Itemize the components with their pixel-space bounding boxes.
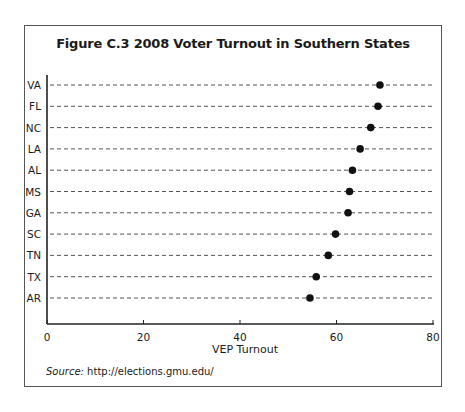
data-point [374, 103, 382, 111]
x-tick-label: 20 [137, 331, 150, 343]
data-point [312, 273, 320, 281]
y-category-label: SC [27, 228, 41, 240]
y-category-label: TN [26, 249, 41, 261]
data-point [332, 230, 340, 238]
data-point [349, 166, 357, 174]
x-axis-label: VEP Turnout [180, 343, 310, 356]
y-category-label: NC [26, 122, 41, 134]
x-tick-label: 60 [330, 331, 343, 343]
y-category-label: LA [28, 143, 42, 155]
y-category-label: GA [26, 207, 42, 219]
y-category-label: AR [27, 292, 41, 304]
y-category-label: TX [26, 271, 41, 283]
y-category-label: AL [28, 164, 41, 176]
y-category-label: FL [29, 100, 41, 112]
data-point [356, 145, 364, 153]
y-category-label: VA [27, 79, 42, 91]
data-point [344, 209, 352, 217]
source-label: Source: [46, 366, 84, 377]
x-tick-label: 80 [426, 331, 439, 343]
data-point [306, 294, 314, 302]
x-tick-label: 0 [44, 331, 51, 343]
data-point [376, 81, 384, 89]
data-point [346, 188, 354, 196]
source-note: Source: http://elections.gmu.edu/ [46, 366, 214, 377]
source-url: http://elections.gmu.edu/ [84, 366, 214, 377]
x-tick-label: 40 [233, 331, 246, 343]
y-category-label: MS [25, 186, 41, 198]
data-point [324, 252, 332, 260]
data-point [367, 124, 375, 132]
